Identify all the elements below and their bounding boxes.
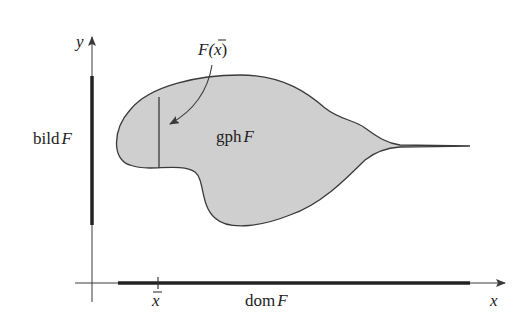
domain-label: domF — [245, 291, 288, 310]
x-bar-label: x — [151, 291, 162, 310]
figure-graph-of-set-valued-mapping: y x x bildF gphF domF F(x) — [0, 0, 529, 332]
fiber-label: F(x) — [197, 40, 227, 59]
x-axis-label: x — [489, 291, 498, 310]
graph-label: gphF — [216, 127, 255, 146]
svg-text:x: x — [151, 291, 160, 310]
y-axis-label: y — [74, 32, 84, 51]
image-label: bildF — [33, 129, 72, 148]
graph-region — [117, 75, 471, 226]
svg-text:F(x): F(x) — [197, 40, 227, 59]
